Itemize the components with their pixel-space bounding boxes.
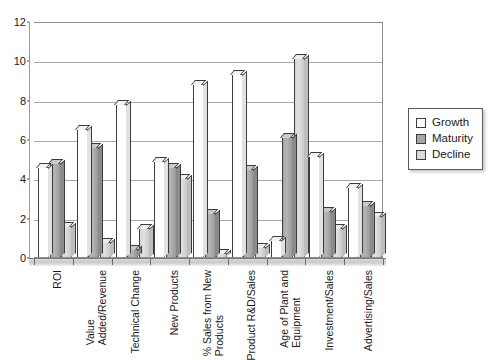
bar-side-face bbox=[176, 163, 181, 257]
legend-item-growth[interactable]: Growth bbox=[416, 115, 473, 131]
bar-side-face bbox=[87, 126, 92, 257]
x-axis-tick-mark bbox=[34, 259, 35, 265]
bar-side-face bbox=[358, 184, 363, 257]
y-axis-tick-label: 4 bbox=[20, 174, 26, 185]
bar-side-face bbox=[126, 100, 131, 257]
x-axis-category-label-line: Age of Plant and bbox=[278, 270, 290, 348]
x-axis-category-label: Age of Plant andEquipment bbox=[278, 270, 302, 348]
bar-side-face bbox=[292, 134, 297, 257]
legend-item-label: Growth bbox=[432, 117, 469, 129]
legend-item-label: Decline bbox=[432, 149, 470, 161]
x-axis-category-label: % Sales from NewProducts bbox=[201, 270, 225, 356]
bar-group bbox=[150, 23, 189, 257]
x-axis-category-label: ROI bbox=[51, 270, 63, 289]
x-axis-tick-mark bbox=[305, 259, 306, 265]
bar-growth bbox=[38, 167, 49, 257]
bar-side-face bbox=[370, 202, 375, 257]
bar-side-face bbox=[342, 225, 347, 257]
x-axis-tick-mark bbox=[383, 259, 384, 265]
x-axis-category-label-line: Products bbox=[213, 270, 225, 356]
bar-side-face bbox=[71, 222, 76, 257]
x-axis-category-label: New Products bbox=[168, 270, 180, 335]
x-axis-category-label-line: ROI bbox=[51, 270, 63, 289]
x-axis-category-label-line: Advertising/Sales bbox=[362, 270, 374, 351]
bar-side-face bbox=[187, 175, 192, 257]
bar-growth bbox=[154, 161, 165, 257]
legend-swatch-icon bbox=[416, 134, 426, 144]
bar-side-face bbox=[381, 213, 386, 257]
bar-side-face bbox=[149, 224, 154, 257]
bar-side-face bbox=[331, 208, 336, 257]
bar-growth bbox=[193, 84, 204, 257]
bar-group bbox=[73, 23, 112, 257]
x-axis-category-label-line: Product R&D/Sales bbox=[245, 270, 257, 360]
bar-growth bbox=[232, 74, 243, 257]
legend-swatch-icon bbox=[416, 150, 426, 160]
x-axis-category-label: Advertising/Sales bbox=[362, 270, 374, 351]
x-axis-tick-mark bbox=[228, 259, 229, 265]
bar-side-face bbox=[203, 81, 208, 257]
y-axis-tick-label: 10 bbox=[14, 56, 26, 67]
x-axis-category-label-line: Investment/Sales bbox=[323, 270, 335, 351]
x-axis-floor bbox=[29, 258, 386, 266]
legend-swatch-icon bbox=[416, 118, 426, 128]
bar-chart: 024681012 ROIValueAdded/RevenueTechnical… bbox=[0, 0, 503, 360]
bar-group bbox=[34, 23, 73, 257]
x-axis-tick-mark bbox=[112, 259, 113, 265]
bar-growth bbox=[348, 187, 359, 257]
bar-group bbox=[305, 23, 344, 257]
bar-group bbox=[344, 23, 383, 257]
y-axis-tick-label: 2 bbox=[20, 213, 26, 224]
legend: GrowthMaturityDecline bbox=[408, 108, 483, 170]
x-axis-tick-mark bbox=[189, 259, 190, 265]
bar-side-face bbox=[253, 166, 258, 257]
x-axis-category-label-line: Added/Revenue bbox=[96, 270, 108, 345]
bar-group bbox=[189, 23, 228, 257]
y-axis-tick-label: 12 bbox=[14, 17, 26, 28]
bar-growth bbox=[116, 104, 127, 257]
x-axis-tick-mark bbox=[73, 259, 74, 265]
bar-side-face bbox=[319, 153, 324, 257]
legend-item-maturity[interactable]: Maturity bbox=[416, 131, 473, 147]
bar-group bbox=[267, 23, 306, 257]
x-axis-category-label: ValueAdded/Revenue bbox=[84, 270, 108, 345]
bar-growth bbox=[271, 240, 282, 257]
bar-group bbox=[112, 23, 151, 257]
bar-growth bbox=[309, 156, 320, 257]
x-axis-category-label-line: Technical Change bbox=[129, 270, 141, 353]
x-axis-category-labels: ROIValueAdded/RevenueTechnical ChangeNew… bbox=[0, 266, 503, 360]
legend-item-label: Maturity bbox=[432, 133, 473, 145]
y-axis-tick-label: 0 bbox=[20, 253, 26, 264]
x-axis-category-label-line: Equipment bbox=[290, 270, 302, 348]
x-axis-category-label-line: New Products bbox=[168, 270, 180, 335]
bar-side-face bbox=[242, 71, 247, 257]
x-axis-category-label: Technical Change bbox=[129, 270, 141, 353]
x-axis-category-label-line: % Sales from New bbox=[201, 270, 213, 356]
bar-group bbox=[228, 23, 267, 257]
bar-side-face bbox=[164, 157, 169, 257]
bar-side-face bbox=[48, 163, 53, 257]
plot-area bbox=[34, 22, 383, 258]
bar-side-face bbox=[98, 144, 103, 257]
x-axis-tick-mark bbox=[344, 259, 345, 265]
bar-side-face bbox=[60, 159, 65, 257]
bar-growth bbox=[77, 129, 88, 257]
y-axis-tick-label: 8 bbox=[20, 95, 26, 106]
x-axis-category-label-line: Value bbox=[84, 270, 96, 345]
x-axis-tick-mark bbox=[150, 259, 151, 265]
x-axis-category-label: Product R&D/Sales bbox=[245, 270, 257, 360]
legend-item-decline[interactable]: Decline bbox=[416, 147, 473, 163]
y-axis-tick-label: 6 bbox=[20, 135, 26, 146]
x-axis-tick-mark bbox=[267, 259, 268, 265]
bar-side-face bbox=[215, 210, 220, 257]
x-axis-category-label: Investment/Sales bbox=[323, 270, 335, 351]
